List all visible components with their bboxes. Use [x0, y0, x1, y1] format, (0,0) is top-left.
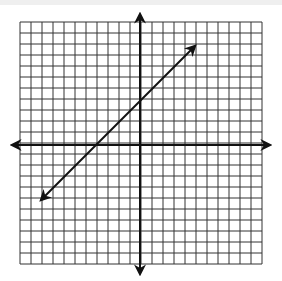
coordinate-plane: [0, 0, 282, 281]
axes: [12, 14, 270, 274]
